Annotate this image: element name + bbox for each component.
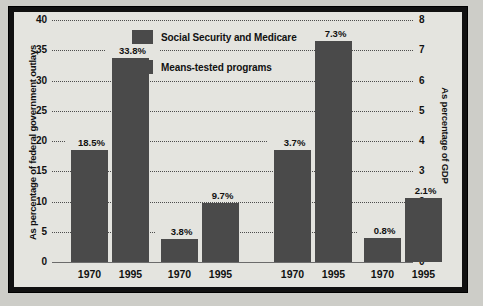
bar-value-label: 3.8%	[155, 227, 208, 237]
y-tick-left-35: 35	[36, 45, 47, 55]
y-axis-title-right: As percentage of GDP	[440, 71, 451, 201]
bar-1995-7	[405, 198, 442, 262]
x-label-1995-5: 1995	[308, 269, 359, 280]
bar-value-label: 7.3%	[309, 29, 362, 39]
gridline	[52, 81, 413, 82]
y-tick-left-10: 10	[36, 197, 47, 207]
bar-value-label: 3.7%	[268, 138, 321, 148]
x-axis-baseline	[52, 262, 413, 263]
y-tick-left-0: 0	[41, 257, 47, 267]
plot-area: 0510152025303540 012345678 18.5%33.8%3.8…	[52, 20, 413, 262]
y-tick-left-40: 40	[36, 15, 47, 25]
bar-value-label: 9.7%	[196, 191, 249, 201]
y-tick-right-3: 3	[419, 166, 425, 176]
y-tick-right-4: 4	[419, 136, 425, 146]
gridline	[52, 111, 413, 112]
y-tick-left-30: 30	[36, 76, 47, 86]
y-tick-left-15: 15	[36, 166, 47, 176]
bar-1995-3	[202, 203, 239, 262]
y-tick-left-25: 25	[36, 106, 47, 116]
bar-1970-0	[71, 150, 108, 262]
gridline	[52, 20, 413, 21]
x-label-1995-7: 1995	[398, 269, 449, 280]
chart-plot-background: As percentage of federal government outl…	[14, 12, 462, 287]
legend-item-social-security: Social Security and Medicare	[132, 30, 297, 44]
bar-1970-6	[364, 238, 401, 262]
x-label-1995-1: 1995	[105, 269, 156, 280]
y-tick-left-20: 20	[36, 136, 47, 146]
bar-value-label: 33.8%	[106, 46, 159, 56]
y-tick-left-5: 5	[41, 227, 47, 237]
bar-1970-4	[274, 150, 311, 262]
bar-value-label: 0.8%	[358, 226, 411, 236]
bar-value-label: 18.5%	[65, 138, 118, 148]
y-tick-right-6: 6	[419, 76, 425, 86]
bar-1995-1	[112, 58, 149, 262]
x-label-1995-3: 1995	[195, 269, 246, 280]
y-tick-right-5: 5	[419, 106, 425, 116]
chart-frame: As percentage of federal government outl…	[8, 6, 468, 293]
y-tick-right-7: 7	[419, 45, 425, 55]
legend-item-means-tested: Means-tested programs	[132, 60, 272, 74]
legend-swatch-social-security	[132, 30, 153, 44]
bar-1970-2	[161, 239, 198, 262]
y-tick-right-8: 8	[419, 15, 425, 25]
legend-label-social-security: Social Security and Medicare	[161, 32, 297, 43]
bar-value-label: 2.1%	[399, 186, 452, 196]
bar-1995-5	[315, 41, 352, 262]
legend-swatch-means-tested	[132, 60, 153, 74]
legend-label-means-tested: Means-tested programs	[161, 62, 272, 73]
